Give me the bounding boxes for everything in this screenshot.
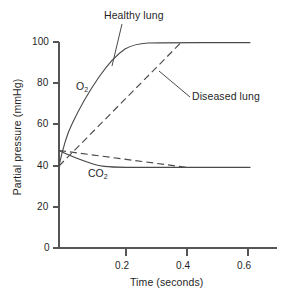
leader-line-healthy-lung	[112, 24, 122, 66]
y-tick-label-60: 60	[37, 118, 48, 129]
y-tick-label-80: 80	[37, 77, 48, 88]
series-label-o2: O2	[76, 80, 88, 92]
leader-line-diseased-lung	[159, 71, 190, 97]
series-label-co2-subscript: 2	[104, 173, 108, 180]
y-tick-label-100: 100	[32, 36, 49, 47]
chart-figure: 100 80 60 40 20 0 0.2 0.4 0.6 Partial pr…	[0, 0, 291, 300]
y-axis-ticks	[53, 42, 59, 248]
series-label-o2-text: O	[76, 80, 84, 92]
series-o2-diseased	[59, 43, 181, 166]
x-tick-label-0p4: 0.4	[176, 260, 190, 271]
chart-series-group	[59, 43, 250, 168]
series-co2-healthy	[59, 151, 250, 168]
annotation-healthy-lung: Healthy lung	[104, 9, 164, 21]
y-axis-title-wrapper: Partial pressure (mmHg)	[9, 52, 25, 222]
y-tick-label-40: 40	[37, 160, 48, 171]
x-axis-ticks	[126, 248, 248, 256]
chart-axes	[59, 42, 277, 248]
series-label-o2-subscript: 2	[84, 86, 88, 93]
series-o2-healthy	[59, 43, 250, 166]
series-label-co2: CO2	[88, 167, 108, 179]
annotation-leader-lines	[112, 24, 190, 97]
y-tick-label-0: 0	[44, 242, 50, 253]
series-label-co2-text: CO	[88, 167, 104, 179]
y-tick-label-20: 20	[37, 201, 48, 212]
annotation-diseased-lung: Diseased lung	[192, 90, 260, 102]
x-tick-label-0p2: 0.2	[115, 260, 129, 271]
x-tick-label-0p6: 0.6	[237, 260, 251, 271]
x-axis-title: Time (seconds)	[130, 276, 203, 288]
y-axis-title: Partial pressure (mmHg)	[11, 79, 23, 196]
